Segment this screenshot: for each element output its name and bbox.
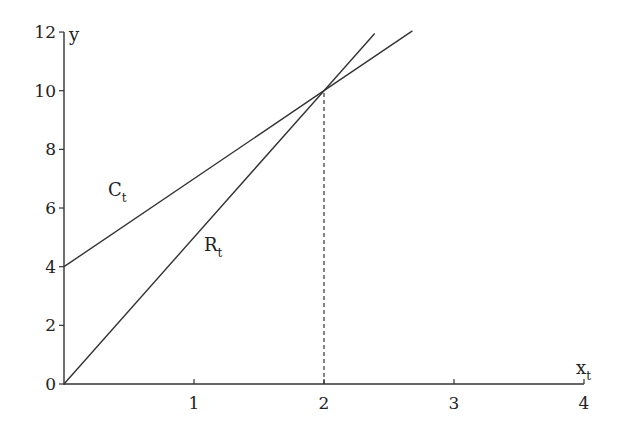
x-tick-label: 2 — [319, 393, 330, 413]
series-c-t-label: Ct — [108, 179, 127, 205]
y-tick-label: 2 — [45, 315, 56, 335]
y-tick-label: 0 — [45, 374, 56, 394]
x-tick-label: 1 — [189, 393, 200, 413]
y-tick-label: 4 — [45, 257, 56, 277]
series-r-t-label: Rt — [204, 234, 223, 260]
y-tick-label: 10 — [34, 81, 56, 101]
y-tick-labels: 024681012 — [34, 22, 56, 394]
y-axis-label: y — [68, 24, 80, 45]
series-c-t-line — [64, 31, 412, 267]
x-ticks — [194, 379, 584, 384]
x-tick-label: 3 — [449, 393, 460, 413]
series-r-t-line — [64, 34, 375, 384]
x-tick-label: 4 — [579, 393, 590, 413]
chart: 024681012 1234 Ct Rt y xt — [0, 0, 618, 431]
y-tick-label: 12 — [34, 22, 56, 42]
y-ticks — [59, 32, 64, 384]
y-tick-label: 6 — [45, 198, 56, 218]
x-tick-labels: 1234 — [189, 393, 590, 413]
y-tick-label: 8 — [45, 139, 56, 159]
